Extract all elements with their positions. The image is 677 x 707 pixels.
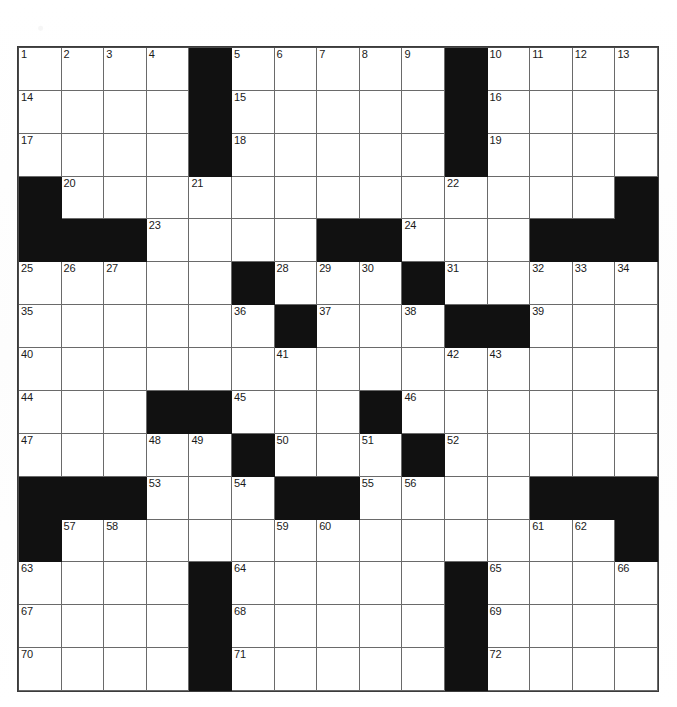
grid-open-cell[interactable] bbox=[62, 391, 105, 434]
grid-open-cell[interactable]: 56 bbox=[402, 477, 445, 520]
grid-open-cell[interactable]: 35 bbox=[19, 305, 62, 348]
grid-open-cell[interactable]: 31 bbox=[445, 262, 488, 305]
grid-open-cell[interactable]: 20 bbox=[62, 177, 105, 220]
grid-open-cell[interactable] bbox=[275, 91, 318, 134]
grid-open-cell[interactable] bbox=[615, 648, 658, 691]
grid-open-cell[interactable] bbox=[62, 91, 105, 134]
grid-open-cell[interactable]: 2 bbox=[62, 48, 105, 91]
grid-open-cell[interactable]: 68 bbox=[232, 605, 275, 648]
grid-open-cell[interactable] bbox=[189, 477, 232, 520]
grid-open-cell[interactable] bbox=[530, 177, 573, 220]
grid-open-cell[interactable]: 54 bbox=[232, 477, 275, 520]
grid-open-cell[interactable]: 8 bbox=[360, 48, 403, 91]
grid-open-cell[interactable] bbox=[317, 648, 360, 691]
grid-open-cell[interactable] bbox=[104, 391, 147, 434]
grid-open-cell[interactable] bbox=[573, 648, 616, 691]
grid-open-cell[interactable] bbox=[147, 262, 190, 305]
grid-open-cell[interactable]: 14 bbox=[19, 91, 62, 134]
grid-open-cell[interactable]: 10 bbox=[488, 48, 531, 91]
grid-open-cell[interactable]: 61 bbox=[530, 520, 573, 563]
grid-open-cell[interactable] bbox=[488, 477, 531, 520]
grid-open-cell[interactable]: 15 bbox=[232, 91, 275, 134]
grid-open-cell[interactable]: 62 bbox=[573, 520, 616, 563]
grid-open-cell[interactable] bbox=[360, 348, 403, 391]
grid-open-cell[interactable] bbox=[573, 177, 616, 220]
grid-open-cell[interactable] bbox=[104, 177, 147, 220]
grid-open-cell[interactable]: 59 bbox=[275, 520, 318, 563]
grid-open-cell[interactable]: 38 bbox=[402, 305, 445, 348]
grid-open-cell[interactable] bbox=[275, 562, 318, 605]
grid-open-cell[interactable]: 33 bbox=[573, 262, 616, 305]
grid-open-cell[interactable]: 41 bbox=[275, 348, 318, 391]
grid-open-cell[interactable]: 37 bbox=[317, 305, 360, 348]
grid-open-cell[interactable] bbox=[104, 305, 147, 348]
grid-open-cell[interactable]: 24 bbox=[402, 219, 445, 262]
grid-open-cell[interactable] bbox=[232, 520, 275, 563]
grid-open-cell[interactable] bbox=[275, 177, 318, 220]
grid-open-cell[interactable] bbox=[62, 648, 105, 691]
grid-open-cell[interactable]: 21 bbox=[189, 177, 232, 220]
grid-open-cell[interactable] bbox=[62, 434, 105, 477]
grid-open-cell[interactable] bbox=[275, 648, 318, 691]
grid-open-cell[interactable]: 29 bbox=[317, 262, 360, 305]
grid-open-cell[interactable] bbox=[189, 262, 232, 305]
grid-open-cell[interactable] bbox=[147, 562, 190, 605]
grid-open-cell[interactable] bbox=[573, 348, 616, 391]
grid-open-cell[interactable] bbox=[360, 305, 403, 348]
grid-open-cell[interactable] bbox=[317, 605, 360, 648]
grid-open-cell[interactable]: 25 bbox=[19, 262, 62, 305]
grid-open-cell[interactable]: 6 bbox=[275, 48, 318, 91]
grid-open-cell[interactable] bbox=[317, 134, 360, 177]
grid-open-cell[interactable] bbox=[402, 348, 445, 391]
grid-open-cell[interactable]: 63 bbox=[19, 562, 62, 605]
grid-open-cell[interactable]: 64 bbox=[232, 562, 275, 605]
grid-open-cell[interactable]: 30 bbox=[360, 262, 403, 305]
grid-open-cell[interactable]: 19 bbox=[488, 134, 531, 177]
grid-open-cell[interactable] bbox=[402, 134, 445, 177]
grid-open-cell[interactable] bbox=[360, 648, 403, 691]
grid-open-cell[interactable]: 67 bbox=[19, 605, 62, 648]
grid-open-cell[interactable] bbox=[402, 520, 445, 563]
grid-open-cell[interactable]: 42 bbox=[445, 348, 488, 391]
grid-open-cell[interactable] bbox=[104, 348, 147, 391]
grid-open-cell[interactable] bbox=[402, 177, 445, 220]
grid-open-cell[interactable] bbox=[360, 605, 403, 648]
grid-open-cell[interactable]: 34 bbox=[615, 262, 658, 305]
grid-open-cell[interactable] bbox=[317, 562, 360, 605]
grid-open-cell[interactable] bbox=[573, 605, 616, 648]
grid-open-cell[interactable] bbox=[530, 562, 573, 605]
grid-open-cell[interactable] bbox=[147, 605, 190, 648]
grid-open-cell[interactable] bbox=[360, 91, 403, 134]
grid-open-cell[interactable]: 72 bbox=[488, 648, 531, 691]
grid-open-cell[interactable]: 70 bbox=[19, 648, 62, 691]
grid-open-cell[interactable]: 36 bbox=[232, 305, 275, 348]
grid-open-cell[interactable]: 22 bbox=[445, 177, 488, 220]
grid-open-cell[interactable] bbox=[615, 605, 658, 648]
grid-open-cell[interactable] bbox=[232, 219, 275, 262]
grid-open-cell[interactable]: 60 bbox=[317, 520, 360, 563]
grid-open-cell[interactable]: 49 bbox=[189, 434, 232, 477]
grid-open-cell[interactable]: 23 bbox=[147, 219, 190, 262]
grid-open-cell[interactable] bbox=[189, 348, 232, 391]
grid-open-cell[interactable]: 57 bbox=[62, 520, 105, 563]
grid-open-cell[interactable] bbox=[530, 134, 573, 177]
grid-open-cell[interactable] bbox=[488, 262, 531, 305]
grid-open-cell[interactable] bbox=[573, 562, 616, 605]
grid-open-cell[interactable] bbox=[104, 434, 147, 477]
grid-open-cell[interactable] bbox=[615, 305, 658, 348]
grid-open-cell[interactable] bbox=[275, 605, 318, 648]
grid-open-cell[interactable] bbox=[147, 348, 190, 391]
grid-open-cell[interactable] bbox=[62, 605, 105, 648]
grid-open-cell[interactable] bbox=[147, 305, 190, 348]
grid-open-cell[interactable] bbox=[147, 91, 190, 134]
crossword-grid[interactable]: 1234567891011121314151617181920212223242… bbox=[18, 47, 658, 691]
grid-open-cell[interactable] bbox=[317, 177, 360, 220]
grid-open-cell[interactable]: 3 bbox=[104, 48, 147, 91]
grid-open-cell[interactable]: 52 bbox=[445, 434, 488, 477]
grid-open-cell[interactable] bbox=[104, 91, 147, 134]
grid-open-cell[interactable]: 44 bbox=[19, 391, 62, 434]
grid-open-cell[interactable] bbox=[488, 177, 531, 220]
grid-open-cell[interactable] bbox=[615, 348, 658, 391]
grid-open-cell[interactable]: 16 bbox=[488, 91, 531, 134]
grid-open-cell[interactable] bbox=[615, 434, 658, 477]
